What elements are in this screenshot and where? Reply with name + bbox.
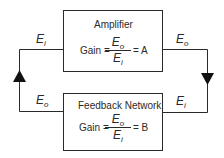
amplifier-denominator: Ei bbox=[105, 52, 131, 69]
signal-label-bottom-left: Eo bbox=[36, 95, 48, 110]
signal-label-bottom-right: Ei bbox=[176, 96, 186, 111]
signal-label-top-right: Eo bbox=[176, 34, 188, 49]
up-arrow-icon bbox=[13, 70, 26, 82]
amplifier-title: Amplifier bbox=[94, 19, 133, 30]
amplifier-gain-result: = A bbox=[133, 45, 148, 56]
feedback-denominator: Ei bbox=[105, 129, 131, 146]
feedback-title: Feedback Network bbox=[78, 100, 161, 111]
signal-label-top-left: Ei bbox=[36, 34, 46, 49]
down-arrow-icon bbox=[201, 73, 214, 85]
feedback-gain-result: = B bbox=[133, 122, 148, 133]
